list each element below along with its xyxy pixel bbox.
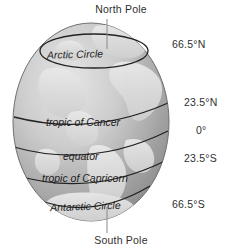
- equator-label: equator: [63, 150, 99, 162]
- globe-diagram: North Pole South Pole Arctic Circle trop…: [0, 0, 242, 251]
- arctic-circle-label: Arctic Circle: [47, 47, 103, 60]
- antarctic-circle-label: Antarctic Circle: [50, 199, 121, 213]
- degree-label-arctic-circle: 66.5°N: [172, 38, 205, 50]
- degree-label-tropic-of-cancer: 23.5°N: [184, 96, 217, 108]
- north-pole-label: North Pole: [0, 3, 242, 15]
- tropic-of-cancer-label: tropic of Cancer: [46, 116, 120, 128]
- degree-label-tropic-of-capricorn: 23.5°S: [184, 152, 217, 164]
- tropic-of-capricorn-label: tropic of Capricorn: [42, 172, 128, 184]
- south-pole-label: South Pole: [0, 234, 242, 246]
- degree-label-equator: 0°: [196, 124, 206, 136]
- degree-label-antarctic-circle: 66.5°S: [172, 198, 205, 210]
